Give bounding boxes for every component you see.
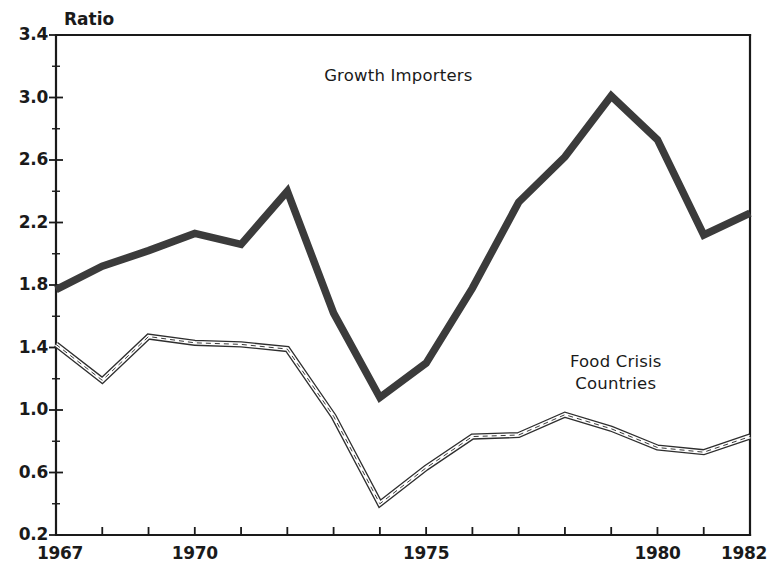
series-label-food-crisis-line2: Countries <box>526 373 706 395</box>
y-tick-label: 2.2 <box>2 212 48 232</box>
y-tick-label: 2.6 <box>2 149 48 169</box>
y-tick-label: 1.4 <box>2 337 48 357</box>
x-tick-label: 1970 <box>160 543 230 563</box>
series-label-food-crisis-countries: Food Crisis Countries <box>526 351 706 396</box>
series-label-growth-importers: Growth Importers <box>308 66 488 85</box>
series-label-food-crisis-line1: Food Crisis <box>570 352 662 371</box>
chart-container: Ratio 3.43.02.62.21.81.41.00.60.2 196719… <box>0 0 778 583</box>
y-tick-label: 1.8 <box>2 274 48 294</box>
y-axis-unit-label: Ratio <box>64 9 114 29</box>
chart-series <box>56 96 750 504</box>
y-tick-label: 3.4 <box>2 24 48 44</box>
y-tick-label: 1.0 <box>2 399 48 419</box>
x-tick-label: 1980 <box>622 543 692 563</box>
x-tick-label: 1967 <box>25 543 95 563</box>
line-chart-plot <box>0 0 778 583</box>
x-tick-label: 1982 <box>709 543 778 563</box>
y-tick-label: 3.0 <box>2 87 48 107</box>
y-tick-label: 0.2 <box>2 524 48 544</box>
chart-axes <box>49 35 750 535</box>
y-tick-label: 0.6 <box>2 462 48 482</box>
x-tick-label: 1975 <box>391 543 461 563</box>
